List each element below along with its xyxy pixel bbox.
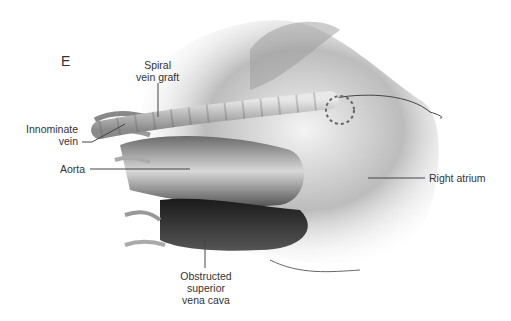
label-line: Obstructed bbox=[178, 270, 234, 282]
label-line: vein bbox=[26, 135, 78, 147]
heart-illustration bbox=[0, 0, 511, 321]
label-aorta: Aorta bbox=[60, 163, 85, 175]
label-innominate-vein: Innominate vein bbox=[26, 123, 78, 147]
label-obstructed-superior-vena-cava: Obstructed superior vena cava bbox=[178, 270, 234, 306]
label-line: Spiral bbox=[136, 59, 179, 71]
label-spiral-vein-graft: Spiral vein graft bbox=[136, 59, 179, 83]
label-line: Innominate bbox=[26, 123, 78, 135]
label-line: superior bbox=[178, 282, 234, 294]
panel-letter: E bbox=[61, 53, 70, 69]
label-line: vein graft bbox=[136, 71, 179, 83]
label-line: vena cava bbox=[178, 294, 234, 306]
label-right-atrium: Right atrium bbox=[429, 172, 486, 184]
